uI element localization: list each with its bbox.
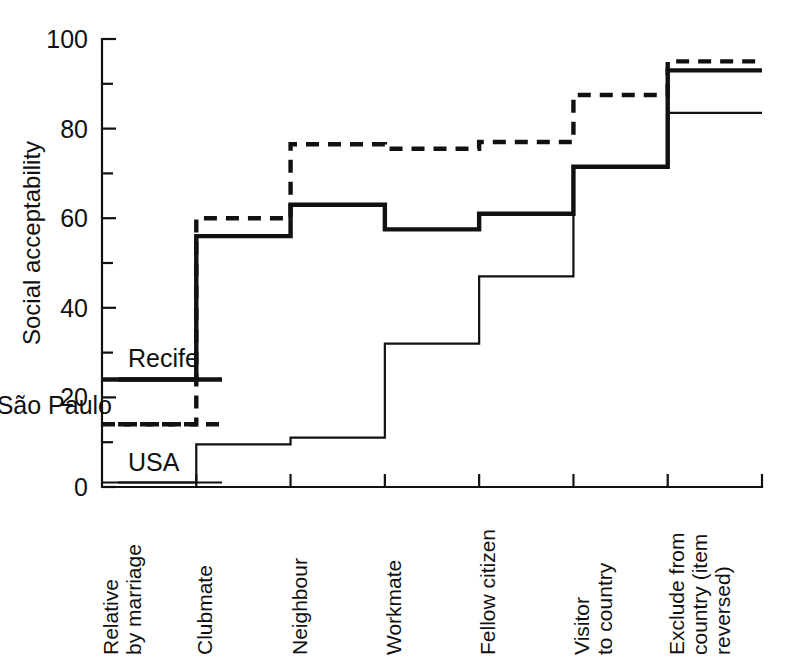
legend-label-usa: USA	[128, 448, 180, 476]
legend-label-são-paulo: São Paulo	[0, 391, 112, 419]
x-category-label: Workmate	[382, 560, 405, 655]
y-tick-label: 0	[74, 473, 88, 501]
chart-figure: 020406080100Social acceptabilityRelative…	[0, 0, 787, 668]
x-category-label: Exclude from	[665, 532, 688, 655]
y-tick-label: 40	[60, 294, 88, 322]
x-category-label: Relative	[99, 579, 122, 655]
legend-label-recife: Recife	[128, 344, 199, 372]
y-axis-title: Social acceptability	[18, 141, 45, 345]
x-category-label: Visitor	[570, 597, 593, 655]
x-category-label: Neighbour	[288, 558, 311, 655]
series-line-recife	[102, 70, 762, 379]
step-chart-canvas: 020406080100Social acceptabilityRelative…	[0, 0, 787, 668]
x-category-label: Clubmate	[193, 565, 216, 655]
y-tick-label: 80	[60, 115, 88, 143]
y-tick-label: 60	[60, 204, 88, 232]
x-category-label: to country	[593, 562, 616, 655]
x-category-label: country (item	[688, 534, 711, 655]
x-category-label: reversed)	[711, 566, 734, 655]
series-line-são-paulo	[102, 61, 762, 424]
x-category-label: Fellow citizen	[476, 529, 499, 655]
axis-lines	[102, 39, 762, 487]
y-tick-label: 100	[46, 25, 88, 53]
x-category-label: by marriage	[122, 544, 145, 655]
